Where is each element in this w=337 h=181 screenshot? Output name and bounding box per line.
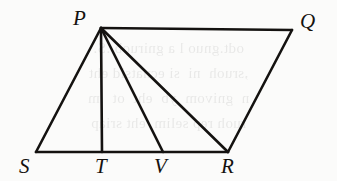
segment-PT — [101, 28, 102, 152]
segment-QR — [228, 30, 292, 152]
point-label-P: P — [73, 8, 86, 29]
point-label-T: T — [95, 156, 107, 177]
point-label-R: R — [221, 156, 234, 177]
figure-page: odt.gnuo l a gniruob .S. ,sruoh ni si ec… — [0, 0, 337, 181]
geometry-diagram — [0, 0, 337, 181]
point-label-S: S — [19, 156, 30, 177]
segment-PV — [101, 28, 163, 152]
geometry-svg — [0, 0, 337, 181]
point-label-V: V — [154, 156, 167, 177]
segment-PQ — [101, 28, 292, 30]
segment-SP — [36, 28, 101, 152]
point-label-Q: Q — [300, 11, 315, 32]
segment-PR — [101, 28, 228, 152]
